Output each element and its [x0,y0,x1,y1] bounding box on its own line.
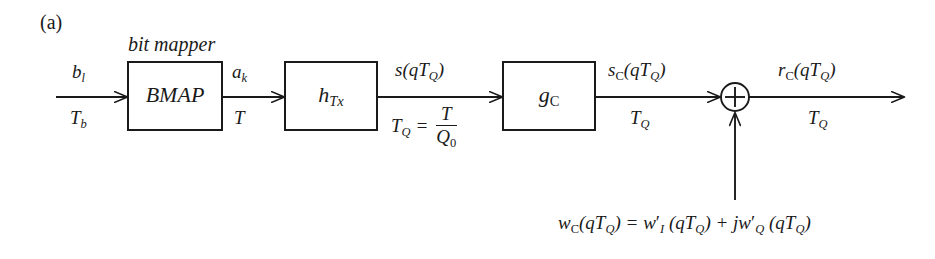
fraction-t-over-q0: T Q0 [431,104,461,150]
signal-sum-out-bottom: TQ [808,108,828,130]
signal-bmap-out-bottom: T [234,108,245,127]
noise-equation: wC(qTQ) = w′I (qTQ) + jw′Q (qTQ) [558,213,811,235]
block-diagram-figure: (a) bit mapper BMAP hTx gC bl Tb ak T s(… [0,0,935,259]
fraction-numerator: T [436,104,457,126]
signal-sum-out-top: rC(qTQ) [778,60,836,82]
signal-htx-out-top: s(qTQ) [395,60,444,82]
block-label-htx: hTx [285,84,377,109]
signal-input-bottom: Tb [70,108,87,130]
block-label-bmap: BMAP [128,84,222,106]
signal-gc-out-top: sC(qTQ) [608,60,666,82]
caption-bit-mapper: bit mapper [128,34,215,54]
signal-input-top: bl [72,62,85,84]
panel-label: (a) [40,12,62,32]
fraction-denominator: Q0 [431,126,461,150]
signal-gc-out-bottom: TQ [630,108,650,130]
signal-bmap-out-top: ak [232,62,247,84]
tq-equals-lhs: TQ = [391,116,428,138]
block-label-gc: gC [503,84,595,109]
circle-plus-icon [721,83,749,111]
signal-htx-out-bottom: TQ = T Q0 [391,104,461,150]
